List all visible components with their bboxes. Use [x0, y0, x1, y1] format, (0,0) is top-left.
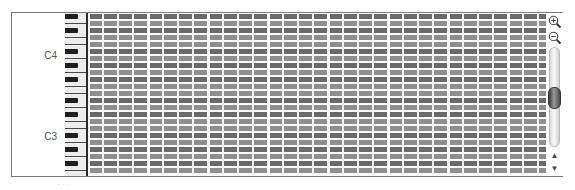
note-grid[interactable]	[88, 13, 546, 176]
beat-line	[162, 13, 164, 176]
bar-line	[88, 13, 90, 176]
white-key-divider	[65, 170, 86, 171]
black-key[interactable]	[65, 28, 78, 33]
black-key[interactable]	[65, 161, 78, 166]
zoom-in-icon	[548, 15, 562, 29]
bar-line	[147, 13, 150, 176]
beat-line	[282, 13, 284, 176]
beat-line	[117, 13, 119, 176]
zoom-out-icon	[548, 31, 562, 45]
bar-line	[327, 13, 330, 176]
black-key[interactable]	[65, 133, 78, 138]
white-key-divider	[65, 121, 86, 122]
white-key-divider	[65, 86, 86, 87]
beat-line	[462, 13, 464, 176]
bar-line	[207, 13, 210, 176]
beat-line	[357, 13, 359, 176]
beat-line	[537, 13, 539, 176]
bar-line	[387, 13, 390, 176]
beat-line	[192, 13, 194, 176]
beat-line	[252, 13, 254, 176]
zoom-out-button[interactable]	[547, 30, 562, 45]
scroll-down-button[interactable]: ▼	[548, 163, 561, 174]
black-key[interactable]	[65, 77, 78, 82]
note-label-c3: C3	[44, 131, 57, 142]
black-key[interactable]	[65, 112, 78, 117]
beat-line	[177, 13, 179, 176]
beat-line	[102, 13, 104, 176]
piano-keyboard[interactable]	[65, 13, 88, 176]
white-key-divider	[65, 23, 86, 24]
white-key-divider	[65, 72, 86, 73]
beat-line	[432, 13, 434, 176]
footer-text: · · ·	[58, 181, 69, 188]
scrollbar-thumb[interactable]	[548, 87, 561, 109]
black-key[interactable]	[65, 14, 78, 19]
note-label-c4: C4	[44, 50, 57, 61]
beat-line	[477, 13, 479, 176]
bar-line	[267, 13, 270, 176]
beat-line	[312, 13, 314, 176]
scroll-up-button[interactable]: ▲	[548, 150, 561, 161]
white-key-divider	[65, 107, 86, 108]
white-key-divider	[65, 37, 86, 38]
vertical-scrollbar[interactable]: ▲ ▼	[546, 13, 563, 176]
white-key-divider	[65, 156, 86, 157]
black-key[interactable]	[65, 63, 78, 68]
black-key[interactable]	[65, 147, 78, 152]
bar-line	[447, 13, 450, 176]
black-key[interactable]	[65, 98, 78, 103]
beat-line	[402, 13, 404, 176]
note-label-panel: C4 C3	[12, 13, 66, 176]
beat-line	[417, 13, 419, 176]
beat-line	[372, 13, 374, 176]
beat-line	[297, 13, 299, 176]
white-key-divider	[65, 44, 86, 45]
beat-line	[237, 13, 239, 176]
white-key-divider	[65, 142, 86, 143]
beat-line	[132, 13, 134, 176]
black-key[interactable]	[65, 49, 78, 54]
white-key-divider	[65, 128, 86, 129]
bar-line	[507, 13, 510, 176]
white-key-divider	[65, 58, 86, 59]
zoom-in-button[interactable]	[547, 14, 562, 29]
piano-roll-editor: C4 C3 ▲ ▼	[11, 12, 563, 177]
beat-line	[492, 13, 494, 176]
beat-line	[222, 13, 224, 176]
white-key-divider	[65, 93, 86, 94]
beat-line	[342, 13, 344, 176]
beat-line	[522, 13, 524, 176]
